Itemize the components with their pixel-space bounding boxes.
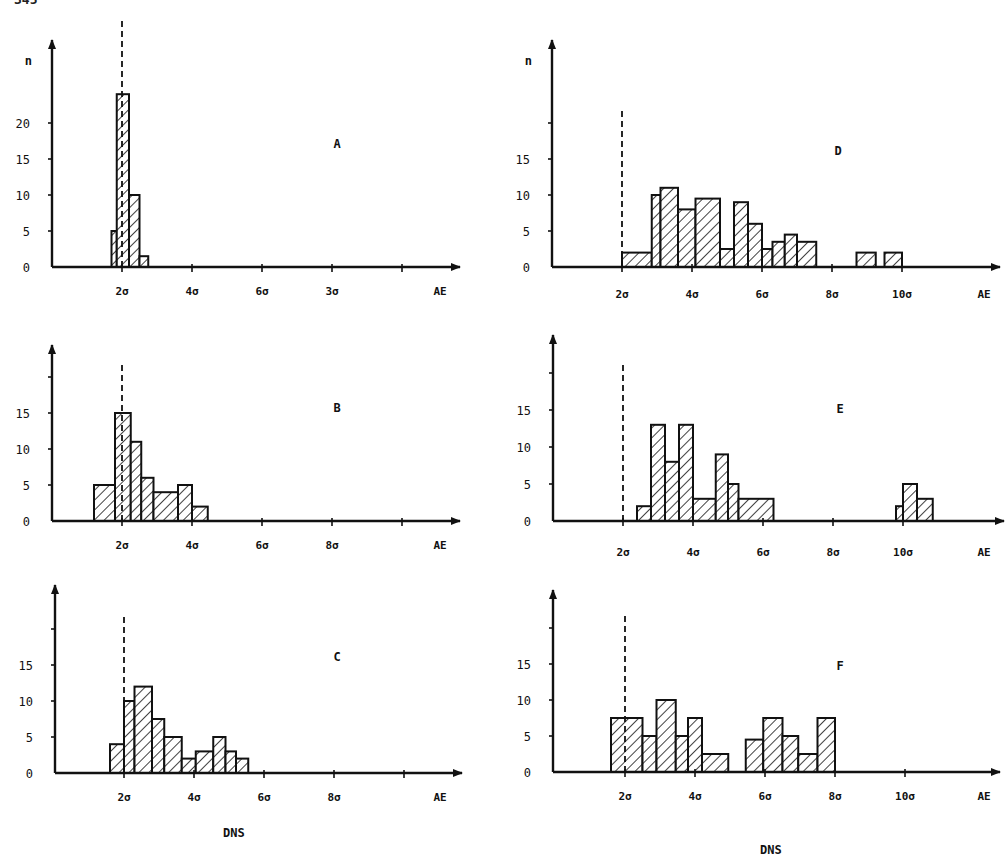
histogram-bar: [140, 256, 149, 267]
x-tick-label: 4σ: [685, 288, 699, 301]
x-tick-label: 6σ: [257, 791, 271, 804]
histogram-bar: [783, 736, 799, 772]
histogram-bar: [154, 492, 179, 521]
x-tick-label: 4σ: [688, 790, 702, 803]
histogram-panel-c: 0510152σ4σ6σ8σAEC: [19, 585, 462, 804]
histogram-bar: [679, 425, 693, 521]
x-tick-label: 2σ: [615, 288, 629, 301]
histogram-bar: [903, 484, 917, 521]
histogram-bar: [797, 242, 816, 267]
histogram-bar: [124, 701, 135, 773]
y-tick-label: 10: [16, 189, 30, 203]
y-tick-label: 10: [16, 443, 30, 457]
histogram-bar: [748, 224, 762, 267]
y-tick-label: 0: [524, 766, 531, 780]
histogram-bar: [818, 718, 836, 772]
x-tick-label: 6σ: [755, 288, 769, 301]
histogram-panel-a: 05101520n2σ4σ6σ3σAEA: [16, 17, 460, 298]
panel-label: F: [836, 659, 843, 673]
histogram-bar: [152, 719, 164, 773]
histogram-bar: [696, 199, 721, 267]
histogram-bar: [196, 751, 214, 773]
histogram-bar: [716, 454, 728, 521]
y-tick-label: 15: [16, 407, 30, 421]
panel-label: E: [836, 402, 843, 416]
x-tick-label: 6σ: [756, 546, 770, 559]
histogram-bar: [213, 737, 225, 773]
x-tick-label: 8σ: [828, 790, 842, 803]
histogram-bar: [734, 202, 748, 267]
x-axis-label: AE: [433, 539, 446, 552]
histogram-bar: [785, 235, 797, 267]
x-axis-label: AE: [977, 288, 990, 301]
x-axis-label: AE: [977, 546, 990, 559]
x-tick-label: 8σ: [825, 288, 839, 301]
histogram-bar: [652, 195, 661, 267]
x-tick-label: 10σ: [893, 546, 913, 559]
y-tick-label: 0: [23, 261, 30, 275]
y-tick-label: 5: [523, 225, 530, 239]
x-tick-label: 6σ: [758, 790, 772, 803]
histogram-bar: [611, 718, 643, 772]
y-tick-label: 5: [524, 478, 531, 492]
y-tick-label: 15: [516, 153, 530, 167]
histogram-panel-f: 0510152σ4σ6σ8σ10σAEF: [517, 590, 1000, 803]
histogram-bar: [728, 484, 739, 521]
y-tick-label: 15: [517, 404, 531, 418]
x-tick-label: 4σ: [686, 546, 700, 559]
x-tick-label: 2σ: [115, 539, 129, 552]
x-tick-label: 8σ: [325, 539, 339, 552]
y-tick-label: 0: [524, 515, 531, 529]
y-tick-label: 0: [523, 261, 530, 275]
panel-label: C: [333, 650, 340, 664]
histogram-bar: [693, 499, 716, 521]
x-tick-label: 2σ: [115, 285, 129, 298]
y-tick-label: 0: [26, 767, 33, 781]
histogram-bar: [643, 736, 657, 772]
histogram-bar: [688, 718, 702, 772]
histogram-bar: [651, 425, 665, 521]
histogram-panel-b: 0510152σ4σ6σ8σAEB: [16, 345, 460, 552]
y-tick-label: 5: [23, 479, 30, 493]
y-tick-label: 5: [23, 225, 30, 239]
y-tick-label: 20: [16, 117, 30, 131]
x-tick-label: 2σ: [616, 546, 630, 559]
x-tick-label: 3σ: [325, 285, 339, 298]
histogram-bar: [178, 485, 192, 521]
histogram-bar: [746, 740, 764, 772]
histogram-panels: 05101520n2σ4σ6σ3σAEA 0510152σ4σ6σ8σAEB 0…: [0, 0, 1006, 860]
y-tick-label: 5: [26, 731, 33, 745]
histogram-bar: [917, 499, 933, 521]
histogram-bar: [885, 253, 903, 267]
panel-label: D: [834, 144, 841, 158]
histogram-bar: [141, 478, 153, 521]
y-tick-label: 5: [524, 730, 531, 744]
x-tick-label: 8σ: [327, 791, 341, 804]
x-tick-label: 6σ: [255, 539, 269, 552]
panel-label: B: [333, 401, 340, 415]
y-tick-label: 15: [16, 153, 30, 167]
histogram-bar: [135, 687, 153, 773]
histogram-bar: [678, 209, 696, 267]
x-axis-label: AE: [977, 790, 990, 803]
histogram-bar: [896, 506, 903, 521]
y-tick-label: 15: [19, 659, 33, 673]
histogram-bar: [131, 442, 142, 521]
histogram-bar: [763, 718, 782, 772]
x-tick-label: 4σ: [187, 791, 201, 804]
histogram-bar: [720, 249, 734, 267]
x-tick-label: 2σ: [618, 790, 632, 803]
histogram-bar: [226, 751, 237, 773]
x-tick-label: 6σ: [255, 285, 269, 298]
x-tick-label: 4σ: [185, 539, 199, 552]
histogram-bar: [798, 754, 817, 772]
histogram-bar: [129, 195, 140, 267]
y-tick-label: 10: [19, 695, 33, 709]
x-axis-label: AE: [433, 285, 446, 298]
x-axis-label: AE: [433, 791, 446, 804]
histogram-bar: [657, 700, 676, 772]
histogram-panel-e: 0510152σ4σ6σ8σ10σAEE: [517, 335, 1004, 559]
y-tick-label: 0: [23, 515, 30, 529]
y-tick-label: 10: [517, 441, 531, 455]
histogram-bar: [622, 253, 652, 267]
